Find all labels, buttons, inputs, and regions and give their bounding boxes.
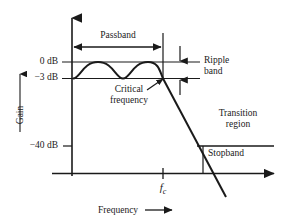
stopband-label: Stopband <box>208 148 264 159</box>
critical-frequency-label-line2: frequency <box>110 95 148 105</box>
transition-region-label-line1: Transition <box>219 108 258 118</box>
ripple-band-label: Ripple band <box>204 55 258 76</box>
ripple-band-label-line2: band <box>204 66 222 76</box>
y-tick-label-minus40db: −40 dB <box>6 140 58 151</box>
x-tick-label-fc: fc <box>150 182 176 198</box>
ripple-band-label-line1: Ripple <box>204 55 229 65</box>
y-tick-label-0db: 0 dB <box>12 56 58 67</box>
passband-ripple-curve <box>73 62 163 79</box>
critical-frequency-label-line1: Critical <box>115 84 144 94</box>
x-tick-label-fc-sub: c <box>163 187 167 196</box>
transition-region-label: Transition region <box>208 108 268 129</box>
y-axis-title: Gain <box>15 85 25 145</box>
critical-frequency-label: Critical frequency <box>98 84 160 105</box>
transition-slope-line <box>163 79 226 198</box>
y-tick-label-minus3db: −3 dB <box>12 72 58 83</box>
transition-region-label-line2: region <box>226 119 250 129</box>
passband-label: Passband <box>78 30 158 41</box>
filter-response-figure: 0 dB −3 dB −40 dB Passband Ripple band C… <box>0 0 288 224</box>
x-axis-title: Frequency <box>98 205 172 216</box>
